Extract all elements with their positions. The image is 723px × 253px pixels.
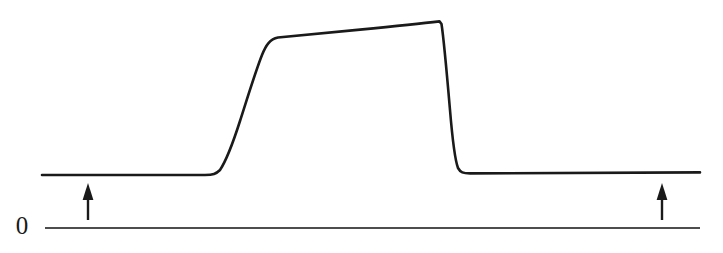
figure-canvas: 0 <box>0 0 723 253</box>
zero-level-label: 0 <box>8 211 36 241</box>
right-arrow-head <box>657 183 668 200</box>
left-stimulus-arrow <box>83 183 94 220</box>
response-trace-path <box>42 21 700 175</box>
left-arrow-head <box>83 183 94 200</box>
trace-plot <box>0 0 723 253</box>
right-stimulus-arrow <box>657 183 668 220</box>
